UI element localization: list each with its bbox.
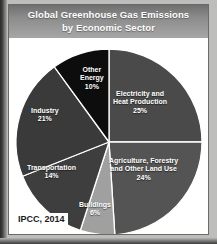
pie-slice — [109, 49, 202, 142]
chart-card: Global Greenhouse Gas Emissions by Econo… — [8, 4, 209, 235]
pie-slice — [109, 142, 202, 234]
chart-title-line-2: by Economic Sector — [9, 22, 208, 35]
pie-slices — [16, 49, 202, 234]
chart-title-bar: Global Greenhouse Gas Emissions by Econo… — [9, 5, 208, 38]
pie-chart-plot: Electricity andHeat Production25%Agricul… — [9, 38, 208, 234]
chart-title-line-1: Global Greenhouse Gas Emissions — [9, 9, 208, 22]
source-attribution: IPCC, 2014 — [17, 213, 68, 225]
figure-root: Global Greenhouse Gas Emissions by Econo… — [0, 0, 217, 244]
scan-left-edge — [0, 0, 7, 244]
pie-chart-svg — [9, 38, 208, 234]
scan-bottom-edge — [0, 238, 217, 244]
